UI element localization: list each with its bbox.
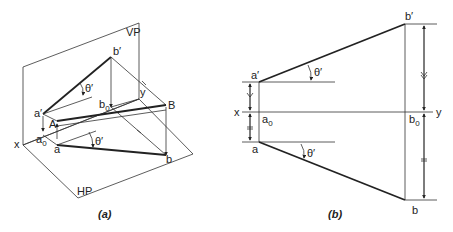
label-a: a [54, 143, 61, 155]
label-a-prime: a′ [34, 107, 42, 119]
label-vp: VP [126, 26, 141, 38]
projection-diagrams: VP HP x y b′ a′ A B a b a0 b0 θ′ θ′ (a) [0, 0, 453, 232]
label-a0: a0 [262, 113, 273, 128]
label-b-prime: b′ [405, 10, 413, 22]
caption-b: (b) [328, 208, 342, 220]
label-a-prime: a′ [251, 69, 259, 81]
label-b-prime: b′ [113, 45, 121, 57]
label-theta-lower: θ′ [307, 147, 315, 159]
label-b0: b0 [409, 113, 420, 128]
label-theta-upper: θ′ [85, 82, 93, 94]
label-hp: HP [77, 185, 92, 197]
label-theta-upper: θ′ [314, 66, 322, 78]
label-y: y [140, 86, 146, 98]
label-b0: b0 [99, 98, 110, 113]
label-a: a [252, 143, 259, 155]
caption-a: (a) [98, 208, 112, 220]
label-y: y [436, 106, 442, 118]
label-a0: a0 [36, 133, 47, 148]
figure-a-pictorial: VP HP x y b′ a′ A B a b a0 b0 θ′ θ′ (a) [14, 23, 193, 220]
label-A: A [49, 118, 57, 130]
label-b: b [166, 153, 172, 165]
label-b: b [412, 204, 418, 216]
label-x: x [14, 138, 20, 150]
label-B: B [168, 99, 175, 111]
label-x: x [234, 106, 240, 118]
label-theta-lower: θ′ [95, 135, 103, 147]
figure-b-orthographic: a′ b′ a b x y a0 b0 θ′ θ′ (b) [234, 10, 442, 220]
